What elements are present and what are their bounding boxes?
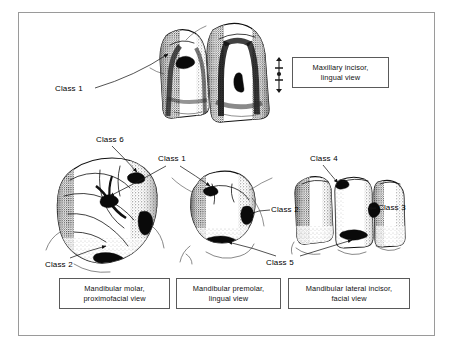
caption-molar-line2: proximofacial view [83,294,145,303]
label-class6: Class 6 [96,135,124,144]
label-class4: Class 4 [310,154,338,163]
caption-maxillary-line2: lingual view [321,73,360,82]
caption-mandibular-molar: Mandibular molar, proximofacial view [59,278,170,309]
label-class1-middle: Class 1 [158,154,186,163]
label-class3: Class 3 [378,203,406,212]
caption-premolar-line1: Mandibular premolar, [193,284,264,293]
caption-molar-line1: Mandibular molar, [84,284,144,293]
caption-incisor-line2: facial view [331,294,366,303]
label-class2-molar: Class 2 [45,260,73,269]
figure-root: Class 1 Class 6 Class 1 Class 4 Class 3 … [0,0,456,356]
caption-incisor-line1: Mandibular lateral incisor, [306,284,393,293]
caption-mandibular-premolar: Mandibular premolar, lingual view [176,278,281,309]
caption-maxillary-line1: Maxillary incisor, [312,63,368,72]
caption-maxillary-incisor: Maxillary incisor, lingual view [292,57,389,88]
caption-mandibular-lateral-incisor: Mandibular lateral incisor, facial view [288,278,410,309]
caption-premolar-line2: lingual view [209,294,248,303]
label-class2-premolar: Class 2 [271,205,299,214]
label-class1-maxillary: Class 1 [55,84,83,93]
label-class5: Class 5 [266,258,294,267]
